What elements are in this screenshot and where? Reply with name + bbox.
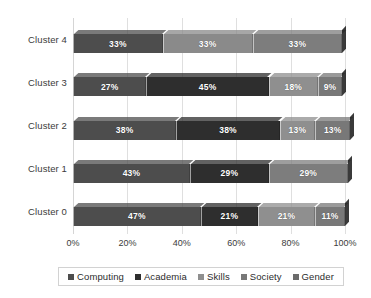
bar-body: 43%29%29% — [73, 164, 345, 183]
bar-segment-top-face — [74, 203, 204, 207]
bar-segment-computing[interactable]: 43% — [73, 164, 190, 183]
bar-segment-academia[interactable]: 29% — [190, 164, 269, 183]
bar-segment-society[interactable]: 33% — [253, 34, 343, 53]
bar-segment-society[interactable]: 13% — [315, 121, 350, 140]
bar-segment-value-label: 29% — [299, 168, 317, 178]
bar-body: 27%45%18%9% — [73, 77, 345, 96]
category-label-cluster-4: Cluster 4 — [6, 34, 67, 45]
bar-segment-skills[interactable]: 18% — [269, 77, 318, 96]
x-tick-label: 40% — [173, 238, 191, 248]
x-tick-label: 0% — [66, 238, 79, 248]
bar-body: 33%33%33% — [73, 34, 345, 53]
bar-segment-value-label: 9% — [324, 82, 337, 92]
bar-segment-value-label: 13% — [324, 125, 342, 135]
legend-item-skills[interactable]: Skills — [198, 271, 230, 282]
bar-segment-skills[interactable]: 13% — [280, 121, 315, 140]
bar-segment-top-face — [74, 117, 180, 121]
bar-side-face — [345, 199, 349, 226]
legend-label: Computing — [77, 271, 124, 282]
stacked-bar-chart: 33%33%33%27%45%18%9%38%38%13%13%43%29%29… — [0, 0, 371, 298]
legend-label: Gender — [302, 271, 334, 282]
bar-stack[interactable]: 38%38%13%13% — [73, 117, 345, 140]
bar-segment-top-face — [316, 117, 354, 121]
legend-swatch-icon — [293, 274, 299, 280]
category-label-cluster-3: Cluster 3 — [6, 77, 67, 88]
legend-item-gender[interactable]: Gender — [293, 271, 334, 282]
legend-label: Society — [250, 271, 282, 282]
bar-segment-computing[interactable]: 38% — [73, 121, 176, 140]
bar-segment-value-label: 45% — [199, 82, 217, 92]
bar-segment-value-label: 27% — [101, 82, 119, 92]
x-tick-label: 100% — [333, 238, 356, 248]
bar-body: 47%21%21%11% — [73, 207, 345, 226]
bar-side-face — [342, 26, 346, 53]
bar-side-face — [348, 156, 352, 183]
chart-legend: ComputingAcademiaSkillsSocietyGender — [58, 267, 344, 286]
legend-swatch-icon — [135, 274, 141, 280]
bar-segment-computing[interactable]: 33% — [73, 34, 163, 53]
bar-segment-value-label: 29% — [221, 168, 239, 178]
bar-segment-skills[interactable]: 21% — [258, 207, 315, 226]
bar-segment-value-label: 21% — [221, 211, 239, 221]
bar-segment-value-label: 18% — [284, 82, 302, 92]
bar-segment-top-face — [74, 30, 166, 34]
bar-segment-value-label: 47% — [128, 211, 146, 221]
legend-swatch-icon — [68, 274, 74, 280]
bar-segment-top-face — [202, 203, 262, 207]
category-label-cluster-0: Cluster 0 — [6, 206, 67, 217]
bar-segment-skills[interactable]: 33% — [163, 34, 253, 53]
legend-swatch-icon — [241, 274, 247, 280]
bar-segment-value-label: 11% — [321, 211, 338, 221]
legend-label: Skills — [207, 271, 230, 282]
bar-stack[interactable]: 27%45%18%9% — [73, 73, 345, 96]
bar-segment-academia[interactable]: 38% — [176, 121, 279, 140]
x-tick-label: 20% — [118, 238, 136, 248]
bar-segment-top-face — [74, 160, 193, 164]
bar-segment-computing[interactable]: 27% — [73, 77, 146, 96]
bar-body: 38%38%13%13% — [73, 121, 345, 140]
bar-stack[interactable]: 47%21%21%11% — [73, 203, 345, 226]
legend-item-society[interactable]: Society — [241, 271, 282, 282]
bar-side-face — [350, 112, 354, 139]
bar-segment-top-face — [74, 73, 150, 77]
bar-segment-top-face — [281, 117, 319, 121]
legend-label: Academia — [144, 271, 187, 282]
bar-segment-academia[interactable]: 21% — [201, 207, 258, 226]
bar-stack[interactable]: 33%33%33% — [73, 30, 345, 53]
bar-segment-skills[interactable]: 29% — [269, 164, 348, 183]
bar-segment-top-face — [147, 73, 272, 77]
bar-segment-top-face — [270, 160, 351, 164]
bar-segment-top-face — [191, 160, 272, 164]
bar-segment-value-label: 33% — [199, 39, 217, 49]
bar-segment-society[interactable]: 9% — [318, 77, 342, 96]
legend-swatch-icon — [198, 274, 204, 280]
category-label-cluster-1: Cluster 1 — [6, 163, 67, 174]
bar-segment-value-label: 13% — [289, 125, 307, 135]
legend-item-computing[interactable]: Computing — [68, 271, 124, 282]
x-axis-tick-labels: 0%20%40%60%80%100% — [73, 238, 345, 252]
bar-segment-top-face — [316, 203, 348, 207]
category-label-cluster-2: Cluster 2 — [6, 120, 67, 131]
bar-segment-value-label: 43% — [123, 168, 141, 178]
bar-segment-academia[interactable]: 45% — [146, 77, 268, 96]
bar-segment-top-face — [259, 203, 319, 207]
bar-segment-value-label: 33% — [289, 39, 307, 49]
bar-segment-value-label: 38% — [219, 125, 237, 135]
bar-segment-top-face — [177, 117, 283, 121]
bar-segment-society[interactable]: 11% — [315, 207, 345, 226]
x-tick-label: 80% — [282, 238, 300, 248]
plot-area: 33%33%33%27%45%18%9%38%38%13%13%43%29%29… — [73, 18, 345, 234]
bar-segment-value-label: 38% — [116, 125, 134, 135]
bar-segment-top-face — [254, 30, 346, 34]
bar-segment-top-face — [164, 30, 256, 34]
bar-segment-top-face — [270, 73, 321, 77]
bar-segment-value-label: 33% — [109, 39, 127, 49]
bar-segment-computing[interactable]: 47% — [73, 207, 201, 226]
bar-segment-value-label: 21% — [278, 211, 296, 221]
legend-item-academia[interactable]: Academia — [135, 271, 187, 282]
x-tick-label: 60% — [227, 238, 245, 248]
bar-stack[interactable]: 43%29%29% — [73, 160, 345, 183]
